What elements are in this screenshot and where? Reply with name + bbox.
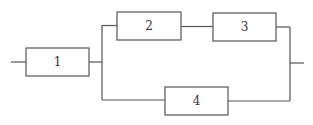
block-4-label: 4 [193, 94, 201, 108]
block-3-label: 3 [241, 20, 249, 34]
block-3: 3 [213, 13, 276, 41]
block-2-label: 2 [145, 19, 153, 33]
diagram-svg: 1 2 3 4 [0, 0, 313, 125]
block-1-label: 1 [54, 55, 62, 69]
block-2: 2 [117, 12, 181, 40]
block-1: 1 [26, 48, 89, 76]
reliability-block-diagram: 1 2 3 4 [0, 0, 313, 125]
block-4: 4 [165, 87, 228, 115]
